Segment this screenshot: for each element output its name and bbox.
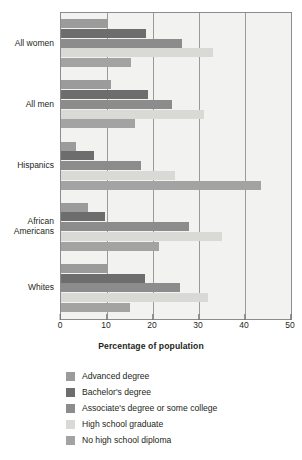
legend-item: Advanced degree xyxy=(66,368,302,384)
x-tick-label: 50 xyxy=(285,320,294,330)
x-axis-title: Percentage of population xyxy=(0,341,302,351)
x-tick-label: 30 xyxy=(193,320,202,330)
legend-item: No high school diploma xyxy=(66,432,302,448)
legend-swatch xyxy=(66,420,75,429)
x-tick-label: 20 xyxy=(147,320,156,330)
bar-chart: All womenAll menHispanicsAfricanAmerican… xyxy=(0,0,302,460)
legend-label: High school graduate xyxy=(82,419,163,429)
x-tick-mark xyxy=(244,314,245,320)
legend-item: Associate's degree or some college xyxy=(66,400,302,416)
x-tick-mark xyxy=(198,314,199,320)
x-tick-mark xyxy=(152,314,153,320)
legend: Advanced degreeBachelor's degreeAssociat… xyxy=(66,368,302,448)
category-label: AfricanAmericans xyxy=(0,216,54,236)
category-axis: All womenAll menHispanicsAfricanAmerican… xyxy=(0,12,302,318)
x-tick-label: 10 xyxy=(101,320,110,330)
category-label: Hispanics xyxy=(0,160,54,170)
legend-label: Advanced degree xyxy=(82,371,149,381)
legend-swatch xyxy=(66,372,75,381)
legend-swatch xyxy=(66,436,75,445)
x-tick-mark xyxy=(106,314,107,320)
legend-swatch xyxy=(66,404,75,413)
legend-label: No high school diploma xyxy=(82,435,171,445)
legend-label: Associate's degree or some college xyxy=(82,403,217,413)
x-tick-mark xyxy=(290,314,291,320)
x-tick-label: 0 xyxy=(58,320,63,330)
category-label: Whites xyxy=(0,282,54,292)
legend-label: Bachelor's degree xyxy=(82,387,151,397)
x-axis-ticks: 01020304050 xyxy=(60,320,290,334)
legend-item: Bachelor's degree xyxy=(66,384,302,400)
category-label: All men xyxy=(0,99,54,109)
legend-swatch xyxy=(66,388,75,397)
legend-item: High school graduate xyxy=(66,416,302,432)
category-label: All women xyxy=(0,38,54,48)
x-tick-mark xyxy=(60,314,61,320)
x-tick-label: 40 xyxy=(239,320,248,330)
